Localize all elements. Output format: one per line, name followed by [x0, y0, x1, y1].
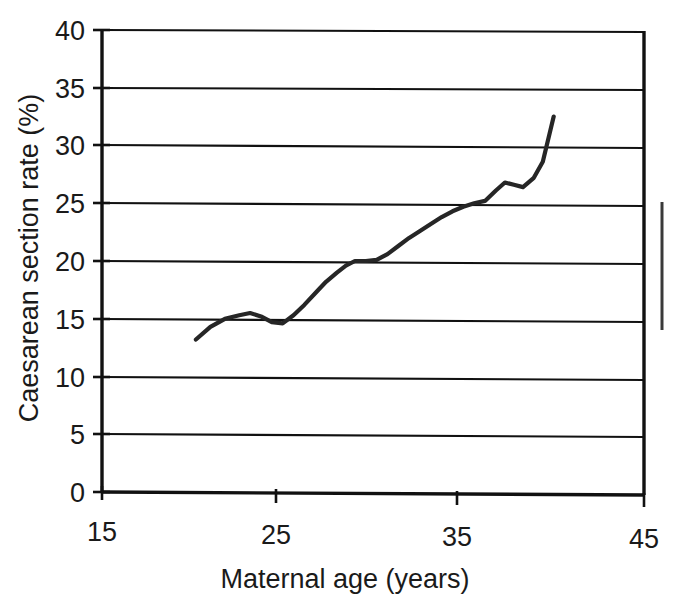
x-tick-label-25: 25 [261, 520, 291, 550]
x-tick-label-15: 15 [87, 517, 117, 547]
x-axis-title: Maternal age (years) [220, 564, 469, 594]
y-tick-label-5: 5 [70, 420, 85, 450]
y-tick-label-25: 25 [55, 189, 85, 219]
y-tick-label-0: 0 [70, 478, 85, 508]
x-tick-label-35: 35 [442, 522, 472, 552]
y-tick-label-40: 40 [55, 16, 85, 46]
y-tick-label-20: 20 [55, 247, 85, 277]
chart-figure: 40 35 30 25 20 15 10 5 0 15 25 35 45 Cae… [0, 0, 675, 601]
y-tick-label-15: 15 [55, 305, 85, 335]
y-tick-label-30: 30 [55, 131, 85, 161]
line-chart-canvas: 40 35 30 25 20 15 10 5 0 15 25 35 45 Cae… [0, 0, 675, 601]
y-tick-label-10: 10 [55, 363, 85, 393]
y-tick-label-35: 35 [55, 74, 85, 104]
y-axis-title: Caesarean section rate (%) [14, 94, 44, 423]
x-tick-label-45: 45 [629, 524, 659, 554]
